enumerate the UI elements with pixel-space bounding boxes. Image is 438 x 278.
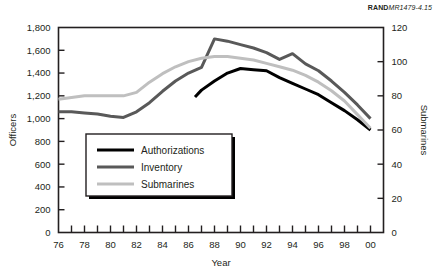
y2-tick-label: 20 bbox=[392, 193, 403, 204]
y2-axis-title: Submarines bbox=[419, 105, 430, 156]
y2-tick-label: 0 bbox=[392, 227, 397, 238]
rand-brand: RAND bbox=[368, 4, 389, 11]
line-chart: 02004006008001,0001,2001,4001,6001,800 0… bbox=[0, 0, 438, 278]
chart-legend: AuthorizationsInventorySubmarines bbox=[86, 134, 235, 199]
y2-tick-label: 120 bbox=[392, 22, 408, 33]
series-line-submarines bbox=[59, 57, 371, 129]
x-axis-ticks: 76788082848688909294969800 bbox=[53, 226, 376, 250]
y2-tick-label: 100 bbox=[392, 56, 408, 67]
rand-report-number: MR1479-4.15 bbox=[388, 4, 432, 11]
y-tick-label: 400 bbox=[35, 181, 51, 192]
y-tick-label: 0 bbox=[45, 227, 50, 238]
x-tick-label: 80 bbox=[105, 239, 116, 250]
y2-axis-ticks: 020406080100120 bbox=[378, 22, 408, 238]
x-tick-label: 86 bbox=[183, 239, 194, 250]
x-tick-label: 82 bbox=[131, 239, 142, 250]
y-axis-title: Officers bbox=[7, 113, 18, 146]
legend-label-submarines: Submarines bbox=[141, 179, 194, 190]
legend-label-inventory: Inventory bbox=[141, 162, 182, 173]
series-line-inventory bbox=[59, 39, 371, 119]
x-tick-label: 88 bbox=[209, 239, 220, 250]
x-axis-title: Year bbox=[211, 257, 230, 268]
y-tick-label: 200 bbox=[35, 204, 51, 215]
rand-credit: RANDMR1479-4.15 bbox=[368, 4, 432, 11]
plot-frame bbox=[59, 28, 384, 233]
y-tick-label: 800 bbox=[35, 136, 51, 147]
y2-tick-label: 80 bbox=[392, 90, 403, 101]
series-layer bbox=[59, 39, 371, 130]
y-tick-label: 1,400 bbox=[27, 67, 51, 78]
figure-container: RANDMR1479-4.15 02004006008001,0001,2001… bbox=[0, 0, 438, 278]
x-tick-label: 78 bbox=[79, 239, 90, 250]
x-tick-label: 84 bbox=[157, 239, 168, 250]
y2-tick-label: 40 bbox=[392, 159, 403, 170]
x-tick-label: 90 bbox=[235, 239, 246, 250]
y2-tick-label: 60 bbox=[392, 124, 403, 135]
legend-label-authorizations: Authorizations bbox=[141, 145, 204, 156]
x-tick-label: 00 bbox=[365, 239, 376, 250]
x-tick-label: 96 bbox=[313, 239, 324, 250]
y-tick-label: 1,800 bbox=[27, 22, 51, 33]
x-tick-label: 98 bbox=[339, 239, 350, 250]
y-tick-label: 1,200 bbox=[27, 90, 51, 101]
x-tick-label: 92 bbox=[261, 239, 272, 250]
x-tick-label: 76 bbox=[53, 239, 64, 250]
x-tick-label: 94 bbox=[287, 239, 298, 250]
y-tick-label: 600 bbox=[35, 159, 51, 170]
y-tick-label: 1,000 bbox=[27, 113, 51, 124]
y-tick-label: 1,600 bbox=[27, 45, 51, 56]
